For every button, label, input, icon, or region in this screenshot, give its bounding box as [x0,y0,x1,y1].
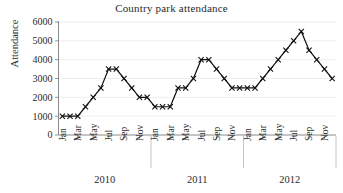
x-tick-label: Nov [227,124,237,141]
axes [59,21,337,135]
y-tick-label: 6000 [33,16,53,27]
year-label: 2011 [187,174,208,185]
data-point-marker [268,66,273,71]
x-tick-label: Jul [197,130,207,141]
year-label: 2010 [94,174,115,185]
x-axis-ticks [62,135,324,139]
data-point-marker [129,85,134,90]
year-group-labels: 201020112012 [94,174,300,185]
data-point-marker [98,85,103,90]
x-tick-label: Sep [304,127,314,142]
y-tick-label: 0 [48,129,53,140]
x-tick-label: May [89,123,99,141]
x-tick-label: Nov [135,124,145,141]
y-tick-label: 1000 [33,111,53,122]
y-tick-label: 5000 [33,35,53,46]
x-tick-label: Jan [243,128,253,141]
x-tick-label: May [274,123,284,141]
x-tick-labels: JanMarMayJulSepNovJanMarMayJulSepNovJanM… [58,123,330,141]
series-polyline [62,31,332,116]
y-axis-ticks: 0100020003000400050006000 [33,16,59,140]
chart-figure: Country park attendance Attendance 01000… [0,0,343,193]
year-label: 2012 [279,174,300,185]
x-tick-label: Nov [320,124,330,141]
data-point-marker [299,29,304,34]
plot-area: 0100020003000400050006000 JanMarMayJulSe… [0,0,343,193]
data-point-marker [214,66,219,71]
data-point-marker [283,48,288,53]
y-tick-label: 2000 [33,92,53,103]
data-series-line [62,31,332,116]
y-tick-label: 4000 [33,54,53,65]
x-tick-label: Mar [258,124,268,141]
x-tick-label: Sep [119,127,129,142]
x-tick-label: Jan [58,128,68,141]
data-point-marker [83,104,88,109]
data-series-markers [60,29,335,119]
x-tick-label: Mar [73,124,83,141]
data-point-marker [322,66,327,71]
x-tick-label: Jul [104,130,114,141]
x-tick-label: Sep [212,127,222,142]
x-tick-label: May [181,123,191,141]
data-point-marker [306,48,311,53]
y-tick-label: 3000 [33,73,53,84]
x-tick-label: Jul [289,130,299,141]
x-tick-label: Jan [150,128,160,141]
x-tick-label: Mar [166,124,176,141]
